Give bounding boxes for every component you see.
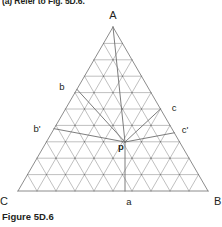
- vertex-label-a: A: [109, 9, 117, 21]
- edge-label-b-prime: b': [33, 123, 40, 134]
- vertex-label-c: C: [0, 195, 8, 207]
- edge-label-b: b: [59, 81, 64, 92]
- edge-label-a: a: [126, 196, 132, 207]
- interior-point-label-p: p: [118, 141, 124, 152]
- ternary-diagram: A B C b b' c c' a p: [0, 0, 222, 227]
- edge-label-c-prime: c': [182, 124, 189, 135]
- vertex-label-b: B: [214, 195, 221, 207]
- grid-lines: [28, 43, 199, 191]
- grid-nodes: [46, 59, 180, 175]
- edge-label-c: c: [172, 102, 177, 113]
- figure-stage: (a) Refer to Fig. 5D.6. A B C b b' c c' …: [0, 0, 222, 227]
- figure-caption: Figure 5D.6: [2, 211, 54, 222]
